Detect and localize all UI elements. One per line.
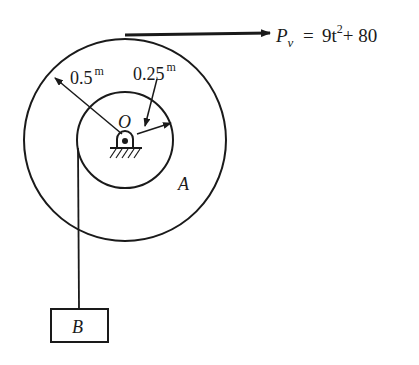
block-label: B	[72, 317, 83, 337]
force-expression: 9t2+ 80	[322, 22, 377, 46]
outer-radius-label: 0.5m	[70, 64, 105, 88]
center-label: O	[118, 112, 131, 132]
inner-radius-arrow	[137, 123, 171, 134]
pulley-label: A	[177, 174, 190, 194]
hanging-rope	[78, 148, 79, 309]
pulley-diagram: Pv = 9t2+ 80 0.5m 0.25m O A B	[0, 0, 419, 365]
diagram-canvas: Pv = 9t2+ 80 0.5m 0.25m O A B	[0, 0, 419, 365]
force-symbol: Pv	[275, 25, 294, 50]
force-arrow	[125, 33, 270, 35]
inner-radius-label: 0.25m	[133, 60, 177, 84]
pin-support-icon	[110, 131, 142, 158]
force-equals: =	[303, 25, 314, 46]
